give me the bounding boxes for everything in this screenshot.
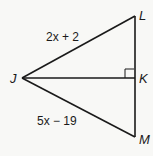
segment-jl <box>22 16 135 78</box>
segment-jm <box>22 78 135 137</box>
point-label-j: J <box>9 71 17 86</box>
right-angle-marker <box>125 69 134 78</box>
point-label-l: L <box>139 8 146 23</box>
segment-jl-expression: 2x + 2 <box>46 30 79 44</box>
triangle-diagram: L K M J 2x + 2 5x − 19 <box>0 0 153 156</box>
point-label-k: K <box>139 71 149 86</box>
point-label-m: M <box>139 132 150 147</box>
segment-jm-expression: 5x − 19 <box>37 114 77 128</box>
